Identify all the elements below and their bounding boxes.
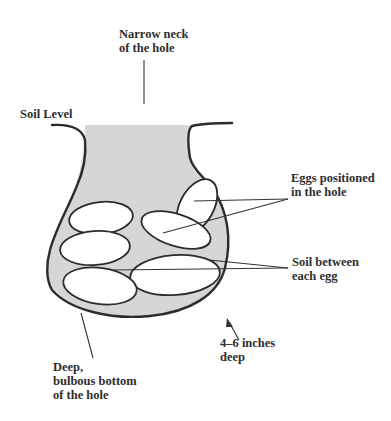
depth-arrow-icon [226, 318, 233, 327]
soil-between-line2: each egg [292, 269, 359, 283]
eggs-label-line1: Eggs positioned [291, 171, 375, 185]
soil-level-label: Soil Level [20, 107, 72, 121]
bottom-label-line1: Deep, [53, 360, 137, 374]
eggs-label: Eggs positioned in the hole [291, 171, 375, 199]
bottom-label: Deep, bulbous bottom of the hole [53, 360, 137, 402]
eggs-label-line2: in the hole [291, 185, 375, 199]
neck-label: Narrow neck of the hole [119, 27, 189, 55]
depth-label-line1: 4–6 inches [220, 336, 275, 350]
depth-label-line2: deep [220, 350, 275, 364]
hole-diagram [0, 0, 391, 421]
depth-label: 4–6 inches deep [220, 336, 275, 364]
soil-between-line1: Soil between [292, 255, 359, 269]
neck-label-line2: of the hole [119, 41, 189, 55]
bottom-label-line2: bulbous bottom [53, 374, 137, 388]
soil-level-text: Soil Level [20, 107, 72, 121]
soil-between-label: Soil between each egg [292, 255, 359, 283]
bottom-leader [81, 313, 93, 358]
neck-label-line1: Narrow neck [119, 27, 189, 41]
bottom-label-line3: of the hole [53, 388, 137, 402]
